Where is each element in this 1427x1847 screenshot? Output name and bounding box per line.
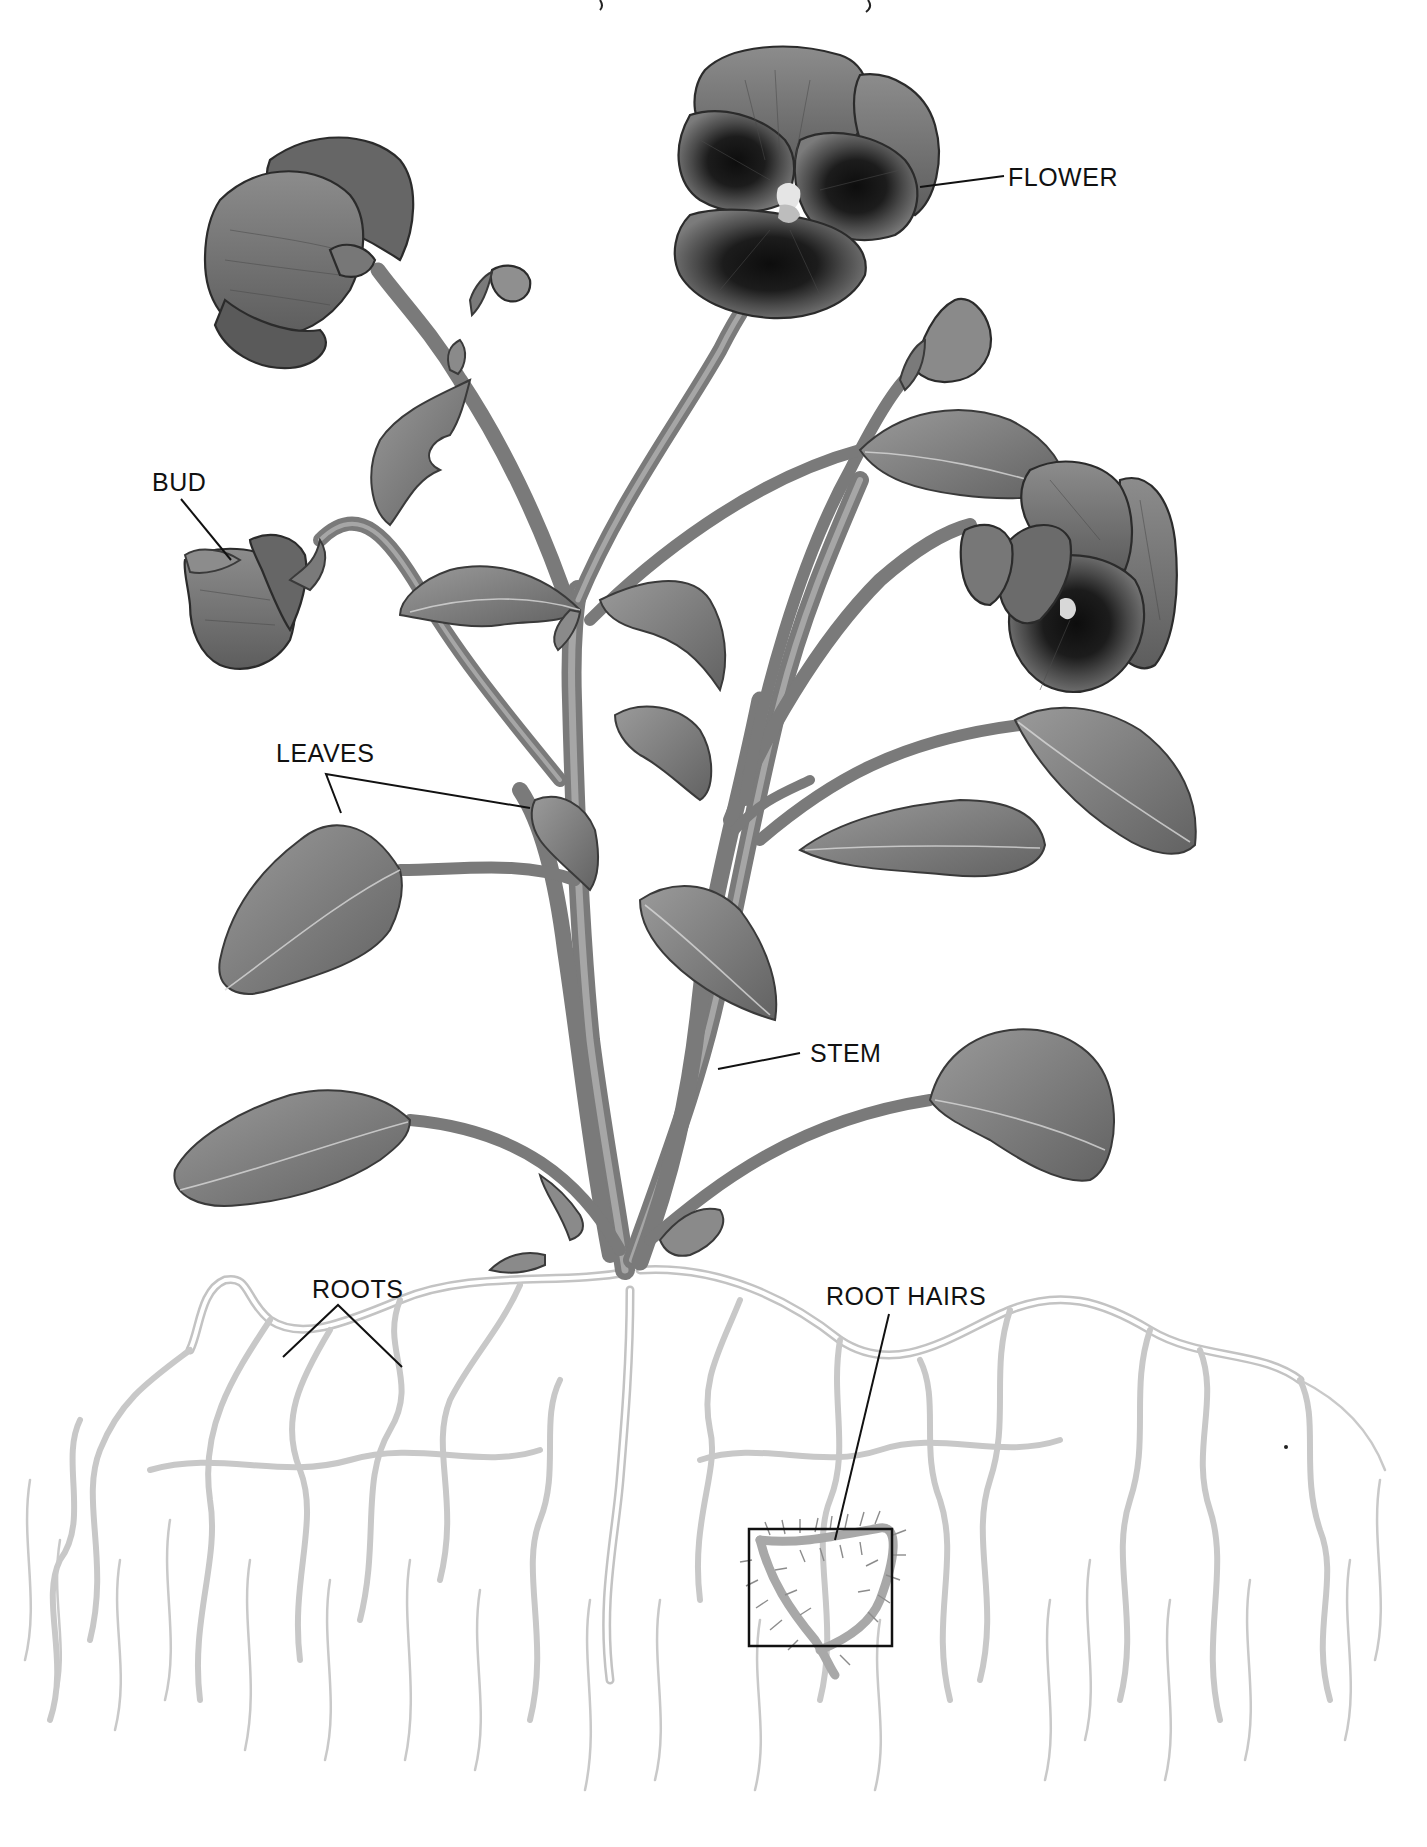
plant-diagram: FLOWER BUD LEAVES STEM ROOTS ROOT HAIRS [0,0,1427,1847]
speck [1284,1445,1288,1449]
label-stem: STEM [810,1039,881,1067]
small-bud-top [470,266,530,315]
roots-leader-line [283,1305,402,1367]
main-flower [675,47,939,319]
bud [185,535,326,669]
label-flower: FLOWER [1008,163,1118,191]
label-bud: BUD [152,468,206,496]
leaves-leader-line [326,774,530,813]
top-right-bud [900,299,991,390]
label-leaves: LEAVES [276,739,374,767]
label-root-hairs: ROOT HAIRS [826,1282,986,1310]
root-system [25,1270,1385,1790]
label-roots: ROOTS [312,1275,403,1303]
cropped-title-remnant [600,0,870,12]
stem-leader-line [718,1053,800,1069]
back-flower [205,138,413,369]
